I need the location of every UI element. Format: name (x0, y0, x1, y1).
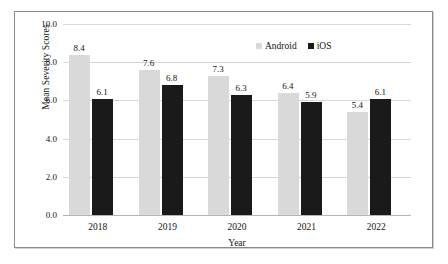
bar-value-label: 6.8 (155, 73, 189, 83)
x-axis-tick-label-2021: 2021 (272, 222, 342, 232)
bar-value-label: 7.3 (201, 64, 235, 74)
x-axis-tick-label-2018: 2018 (63, 222, 133, 232)
bar-ios-2022[interactable] (370, 99, 391, 216)
bar-value-label: 6.3 (224, 83, 258, 93)
y-axis-tick-label: 2.0 (46, 172, 57, 182)
bar-group: 5.46.12022 (341, 24, 411, 215)
bar-value-label: 5.9 (294, 90, 328, 100)
bar-group: 8.46.12018 (63, 24, 133, 215)
bar-ios-2019[interactable] (162, 85, 183, 215)
bar-android-2022[interactable] (347, 112, 368, 215)
y-axis-tick-label: 0.0 (46, 210, 57, 220)
bar-value-label: 6.1 (85, 87, 119, 97)
bar-android-2021[interactable] (278, 93, 299, 215)
legend-swatch-icon (256, 43, 262, 49)
bar-ios-2020[interactable] (231, 95, 252, 215)
chart-frame: Mean Severity Scores 10.08.06.04.02.00.0… (14, 11, 433, 248)
bar-value-label: 7.6 (132, 58, 166, 68)
x-axis-tick-label-2020: 2020 (202, 222, 272, 232)
legend-label: Android (265, 41, 297, 51)
bar-android-2020[interactable] (208, 76, 229, 215)
y-axis-tick-label: 8.0 (46, 57, 57, 67)
legend-entry-ios[interactable]: iOS (308, 41, 332, 51)
y-axis-tick-label: 10.0 (41, 19, 57, 29)
bar-ios-2021[interactable] (301, 102, 322, 215)
bar-android-2019[interactable] (139, 70, 160, 215)
y-axis-tick-label: 4.0 (46, 134, 57, 144)
x-axis-title: Year (63, 238, 411, 248)
legend-entry-android[interactable]: Android (256, 41, 297, 51)
bar-android-2018[interactable] (69, 55, 90, 215)
y-axis-tick-label: 6.0 (46, 95, 57, 105)
bar-value-label: 5.4 (340, 100, 374, 110)
bar-group: 6.45.92021 (272, 24, 342, 215)
x-axis-tick-label-2019: 2019 (133, 222, 203, 232)
bar-group: 7.36.32020 (202, 24, 272, 215)
bar-group: 7.66.82019 (133, 24, 203, 215)
legend-label: iOS (317, 41, 332, 51)
bar-value-label: 8.4 (62, 43, 96, 53)
bar-value-label: 6.4 (271, 81, 305, 91)
bar-ios-2018[interactable] (92, 99, 113, 216)
bars-layer: 8.46.120187.66.820197.36.320206.45.92021… (63, 24, 411, 215)
chart-legend: AndroidiOS (256, 41, 331, 51)
bar-value-label: 6.1 (363, 87, 397, 97)
x-axis-tick-label-2022: 2022 (341, 222, 411, 232)
gridline (63, 215, 411, 216)
legend-swatch-icon (308, 43, 314, 49)
plot-area: 10.08.06.04.02.00.0 8.46.120187.66.82019… (63, 24, 411, 215)
